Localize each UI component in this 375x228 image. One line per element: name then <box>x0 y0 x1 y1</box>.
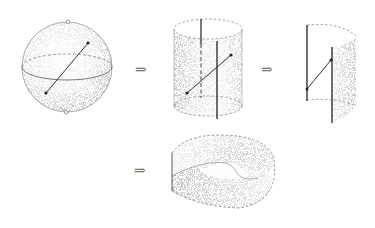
chord-endpoint-upper <box>86 41 89 44</box>
cylinder-chord-endpoint-lower <box>185 91 188 94</box>
sphere-shading <box>22 22 112 112</box>
cut-chord-endpoint-lower <box>306 88 309 91</box>
chord-endpoint-lower <box>44 91 47 94</box>
arrow-2: ⇒ <box>261 61 273 77</box>
south-pole-point <box>64 110 68 114</box>
cylinder-chord-endpoint-upper <box>229 53 232 56</box>
cylinder-top-rim <box>174 19 242 39</box>
cut-cylinder-figure <box>306 24 357 123</box>
cut-chord-line <box>307 60 331 89</box>
mobius-construction-diagram: ⇒ ⇒ ⇒ <box>0 0 375 228</box>
cylinder-body-shading <box>174 29 242 116</box>
cut-chord-endpoint-upper <box>330 59 333 62</box>
cut-surface-shading <box>332 38 356 123</box>
sphere-figure <box>22 20 112 114</box>
arrow-1: ⇒ <box>135 61 147 77</box>
north-pole-point <box>66 20 70 24</box>
mobius-strip-figure <box>172 135 275 208</box>
arrow-3: ⇒ <box>134 162 146 178</box>
cylinder-figure <box>174 19 242 119</box>
cut-top-rim <box>307 24 356 36</box>
